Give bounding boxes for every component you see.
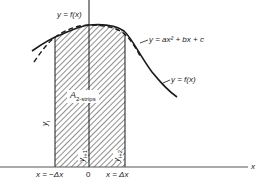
x-axis-label: x: [251, 163, 255, 171]
y-i1-label: yi+1: [78, 150, 88, 162]
y-i2-label: yi+2: [113, 150, 123, 162]
fx-leader: [163, 80, 170, 83]
x-left-label: x = −Δx: [36, 171, 63, 179]
parabola-leader: [140, 40, 148, 43]
x-zero-label: 0: [86, 171, 90, 179]
parabola-label: y = ax² + bx + c: [149, 36, 204, 44]
curve-right-label: y = f(x): [171, 76, 196, 84]
y-i-label: yi: [41, 121, 51, 126]
x-right-label: x = Δx: [106, 171, 128, 179]
curve-top-label: y = f(x): [57, 11, 82, 19]
diagram-canvas: [0, 0, 262, 184]
area-label: A2-strips: [67, 90, 99, 103]
